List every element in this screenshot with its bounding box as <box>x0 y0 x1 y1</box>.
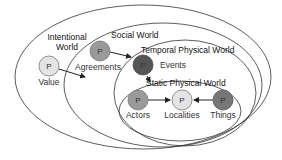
node-value: P Value <box>38 56 59 87</box>
node-events-label: Events <box>160 60 186 70</box>
world-diagram: Intentional World Social World Temporal … <box>0 0 282 160</box>
intentional-world-title: Intentional <box>47 32 86 42</box>
node-actors: P Actors <box>126 90 150 120</box>
intentional-world-title-line2: World <box>56 42 78 52</box>
svg-text:P: P <box>97 47 102 56</box>
node-localities: P Localities <box>164 90 199 120</box>
static-physical-world-title: Static Physical World <box>146 78 226 88</box>
node-things-label: Things <box>210 110 236 120</box>
svg-text:P: P <box>135 96 140 105</box>
svg-text:P: P <box>46 62 51 71</box>
node-agreements-label: Agreements <box>75 62 121 72</box>
temporal-physical-world-title: Temporal Physical World <box>141 45 235 55</box>
svg-text:P: P <box>140 61 145 70</box>
node-events: P Events <box>133 55 186 75</box>
svg-text:P: P <box>179 96 184 105</box>
node-localities-label: Localities <box>164 110 199 120</box>
node-things: P Things <box>210 90 236 120</box>
node-agreements: P Agreements <box>75 41 121 72</box>
social-world-title: Social World <box>111 30 159 40</box>
node-value-label: Value <box>38 77 59 87</box>
edge-agreements-events <box>110 52 131 57</box>
node-actors-label: Actors <box>126 110 150 120</box>
svg-text:P: P <box>220 96 225 105</box>
